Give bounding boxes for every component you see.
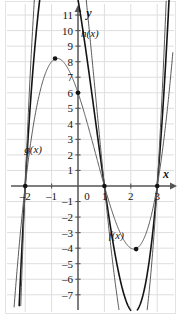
- y-axis-tick-label: 3: [68, 133, 74, 145]
- data-point-marker: [134, 247, 139, 252]
- y-axis-tick-label: 7: [68, 71, 74, 83]
- y-axis-tick-label: –1: [61, 195, 73, 207]
- curve-label-hx: h(x): [81, 27, 99, 40]
- y-axis-tick-label: –7: [61, 289, 74, 301]
- y-axis-tick-label: 4: [68, 118, 74, 130]
- graph-figure: 1110987654321–1–2–3–4–5–6–7–2–10123yxh(x…: [0, 0, 184, 321]
- x-axis-tick-label: 1: [102, 190, 108, 202]
- data-point-marker: [23, 184, 28, 189]
- y-axis-tick-label: 9: [68, 40, 74, 52]
- y-axis-tick-label: 8: [68, 56, 74, 68]
- y-axis-tick-label: 1: [68, 164, 74, 176]
- y-axis-tick-label: 2: [68, 149, 74, 161]
- curve-label-gx: g(x): [24, 143, 42, 156]
- x-axis-tick-label: –2: [19, 190, 31, 202]
- data-point-marker: [53, 56, 58, 61]
- y-axis-tick-label: –3: [61, 227, 74, 239]
- x-axis-tick-label: 0: [84, 190, 90, 202]
- coordinate-plane-svg: 1110987654321–1–2–3–4–5–6–7–2–10123yxh(x…: [0, 0, 184, 321]
- data-point-marker: [102, 184, 107, 189]
- y-axis-tick-label: –2: [61, 211, 73, 223]
- x-axis-tick-label: 3: [154, 190, 160, 202]
- y-axis-tick-label: 10: [62, 25, 74, 37]
- x-axis-tick-label: –1: [45, 190, 57, 202]
- y-axis-tick-label: 5: [68, 102, 74, 114]
- curve-label-fx: f(x): [109, 229, 125, 242]
- y-axis-tick-label: –5: [61, 258, 74, 270]
- y-axis-tick-label: 6: [68, 87, 74, 99]
- y-axis-tick-label: 11: [62, 9, 73, 21]
- plot-background: [0, 0, 184, 321]
- data-point-marker: [155, 184, 160, 189]
- data-point-marker: [76, 90, 81, 95]
- x-axis-name: x: [162, 167, 169, 181]
- y-axis-tick-label: –6: [61, 273, 74, 285]
- y-axis-tick-label: –4: [61, 242, 74, 254]
- y-axis-name: y: [84, 6, 92, 20]
- x-axis-tick-label: 2: [128, 190, 134, 202]
